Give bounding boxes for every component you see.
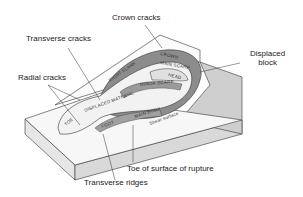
callout-displaced-block-line2: block xyxy=(250,58,285,67)
callout-transverse-ridges: Transverse ridges xyxy=(84,178,148,187)
callout-transverse-cracks: Transverse cracks xyxy=(26,34,91,43)
callout-radial-cracks: Radial cracks xyxy=(18,73,66,82)
callout-displaced-block: Displaced block xyxy=(250,49,285,67)
callout-crown-cracks: Crown cracks xyxy=(112,13,160,22)
callout-toe-of-surface-of-rupture: Toe of surface of rupture xyxy=(127,164,214,173)
callout-displaced-block-line1: Displaced xyxy=(250,49,285,58)
